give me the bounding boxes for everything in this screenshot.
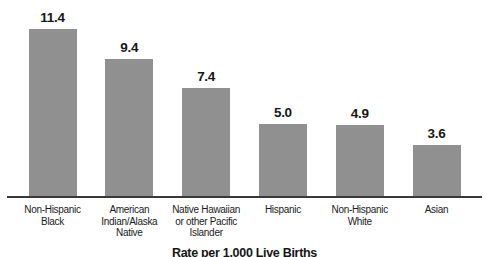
bar-value-label: 4.9 [325,107,395,121]
x-axis-line [7,196,482,198]
bar-value-label: 11.4 [18,11,88,25]
bar [29,29,77,198]
bar-value-label: 7.4 [171,70,241,84]
bar [105,59,153,198]
bar-value-label: 9.4 [94,41,164,55]
bar [413,145,461,198]
chart-caption: Rate per 1,000 Live Births [0,246,489,257]
plot-area: 11.4Non-Hispanic Black9.4American Indian… [0,0,489,257]
bar [336,125,384,198]
bar [182,88,230,198]
bar [259,124,307,198]
bar-value-label: 5.0 [248,106,318,120]
category-label: Asian [392,204,482,216]
bar-value-label: 3.6 [402,127,472,141]
bar-chart: 11.4Non-Hispanic Black9.4American Indian… [0,0,489,257]
